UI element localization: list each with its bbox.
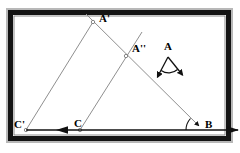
label-a-prime: A' <box>99 12 110 24</box>
frame-inner-field <box>14 16 225 135</box>
label-b: B <box>205 118 213 130</box>
label-a: A <box>164 40 172 52</box>
label-a-double-prime: A'' <box>132 42 146 54</box>
label-c-prime: C' <box>14 118 25 130</box>
geometry-figure: A' A'' A C' C B <box>0 0 240 153</box>
label-c: C <box>74 117 82 129</box>
vertex-dot-a-prime <box>91 20 94 23</box>
vertex-dot-a-double-prime <box>124 54 127 57</box>
diagram-canvas: A' A'' A C' C B <box>0 0 240 153</box>
